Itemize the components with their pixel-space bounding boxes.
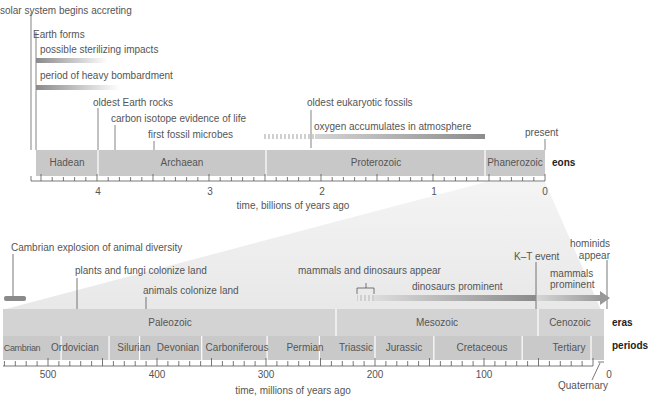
event-hominids: hominids appear	[560, 238, 610, 262]
heavy-bombardment-bar	[36, 85, 120, 90]
quaternary-label: Quaternary	[558, 380, 608, 392]
eon-tick-4: 4	[95, 186, 101, 198]
event-solar-system: solar system begins accreting	[0, 5, 132, 17]
period-tick-300: 300	[258, 369, 275, 381]
era-paleozoic: Paleozoic	[148, 317, 191, 329]
cambrian-explosion-marker	[4, 296, 26, 301]
period-tick-100: 100	[476, 369, 493, 381]
event-plants-fungi: plants and fungi colonize land	[75, 265, 207, 277]
event-mammals-dinosaurs: mammals and dinosaurs appear	[298, 265, 441, 277]
eons-row-label: eons	[552, 157, 575, 169]
period-tick-500: 500	[40, 369, 57, 381]
period-permian: Permian	[286, 342, 323, 354]
period-ordovician: Ordovician	[51, 342, 99, 354]
period-tick-200: 200	[367, 369, 384, 381]
event-present: present	[525, 127, 558, 139]
periods-row-label: periods	[612, 340, 648, 352]
event-carbon-isotope: carbon isotope evidence of life	[111, 113, 246, 125]
period-cambrian: Cambrian	[4, 342, 41, 354]
event-first-fossil-microbes: first fossil microbes	[148, 129, 233, 141]
eon-tick-0: 0	[542, 186, 548, 198]
event-mammals-prominent: mammals prominent	[550, 268, 594, 290]
period-tick-400: 400	[149, 369, 166, 381]
eon-tick-1: 1	[431, 186, 437, 198]
eon-axis-label: time, billions of years ago	[237, 200, 350, 212]
period-devonian: Devonian	[157, 342, 199, 354]
oxygen-bar	[315, 134, 485, 139]
event-oldest-eukaryotic: oldest eukaryotic fossils	[307, 97, 413, 109]
event-earth-forms: Earth forms	[33, 29, 85, 41]
eon-tick-2: 2	[319, 186, 325, 198]
event-sterilizing-impacts: possible sterilizing impacts	[40, 44, 158, 56]
dinosaur-dashed-bar	[357, 295, 374, 301]
event-dinosaurs-prominent: dinosaurs prominent	[412, 281, 503, 293]
event-cambrian-explosion: Cambrian explosion of animal diversity	[11, 242, 182, 254]
dinosaurs-prominent-bar	[374, 295, 536, 301]
mammals-prominent-bar	[537, 295, 601, 301]
event-kt: K–T event	[514, 251, 559, 263]
event-heavy-bombardment: period of heavy bombardment	[40, 70, 173, 82]
sterilizing-impacts-bar	[36, 58, 108, 63]
event-oxygen: oxygen accumulates in atmosphere	[314, 121, 471, 133]
period-carboniferous: Carboniferous	[206, 342, 269, 354]
era-cenozoic: Cenozoic	[549, 317, 591, 329]
period-triassic: Triassic	[339, 342, 373, 354]
eon-proterozoic: Proterozoic	[351, 157, 402, 169]
event-animals-land: animals colonize land	[143, 285, 239, 297]
period-axis-label: time, millions of years ago	[235, 385, 351, 397]
period-cretaceous: Cretaceous	[456, 342, 507, 354]
eon-hadean: Hadean	[49, 157, 84, 169]
period-silurian: Silurian	[117, 342, 150, 354]
period-tertiary: Tertiary	[553, 342, 586, 354]
eon-bar	[36, 150, 545, 176]
oxygen-dashed-bar	[264, 134, 314, 139]
era-mesozoic: Mesozoic	[416, 317, 458, 329]
eon-phanerozoic: Phanerozoic	[487, 157, 543, 169]
eon-archaean: Archaean	[161, 157, 204, 169]
event-oldest-rocks: oldest Earth rocks	[93, 97, 173, 109]
eras-row-label: eras	[612, 317, 633, 329]
present-arrow-icon	[600, 291, 610, 305]
eon-tick-3: 3	[207, 186, 213, 198]
period-jurassic: Jurassic	[386, 342, 423, 354]
